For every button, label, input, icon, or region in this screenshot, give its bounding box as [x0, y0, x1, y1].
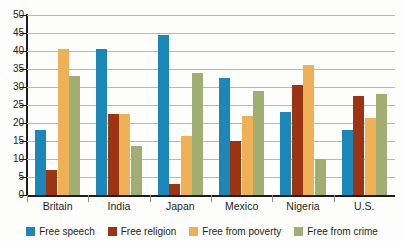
- bar: [365, 118, 376, 195]
- gridline-35: [27, 69, 395, 70]
- bar: [96, 49, 107, 195]
- bar: [230, 141, 241, 195]
- bar: [35, 130, 46, 195]
- bar: [58, 49, 69, 195]
- chart-legend: Free speechFree religionFree from povert…: [0, 221, 404, 241]
- bar: [280, 112, 291, 195]
- bar: [303, 65, 314, 195]
- x-tick-label-mexico: Mexico: [211, 200, 272, 212]
- legend-swatch-icon: [294, 227, 303, 236]
- bar-chart: 50454035302520151050 Free speechFree rel…: [0, 0, 404, 241]
- y-axis-labels: 50454035302520151050: [0, 0, 24, 241]
- bar: [219, 78, 230, 195]
- bar: [342, 130, 353, 195]
- gridline-25: [27, 105, 395, 106]
- legend-swatch-icon: [26, 227, 35, 236]
- x-tick-label-britain: Britain: [27, 200, 88, 212]
- gridline-40: [27, 51, 395, 52]
- bar: [131, 146, 142, 195]
- legend-item[interactable]: Free religion: [108, 226, 177, 237]
- legend-label: Free religion: [121, 226, 177, 237]
- legend-label: Free speech: [39, 226, 95, 237]
- x-tick-label-nigeria: Nigeria: [272, 200, 333, 212]
- x-tick-label-india: India: [88, 200, 149, 212]
- legend-item[interactable]: Free speech: [26, 226, 95, 237]
- legend-swatch-icon: [108, 227, 117, 236]
- gridline-30: [27, 87, 395, 88]
- plot-area: [27, 15, 395, 195]
- bar: [376, 94, 387, 195]
- gridline-10: [27, 159, 395, 160]
- legend-swatch-icon: [189, 227, 198, 236]
- bar: [119, 114, 130, 195]
- bar: [292, 85, 303, 195]
- legend-label: Free from poverty: [202, 226, 281, 237]
- bar: [108, 114, 119, 195]
- bar: [169, 184, 180, 195]
- x-tick-label-us: U.S.: [334, 200, 395, 212]
- x-tick-label-japan: Japan: [150, 200, 211, 212]
- bar: [181, 136, 192, 195]
- bar: [242, 116, 253, 195]
- gridline-50: [27, 15, 395, 16]
- gridline-15: [27, 141, 395, 142]
- bar: [315, 159, 326, 195]
- bar: [46, 170, 57, 195]
- chart-title-cropped: [0, 0, 404, 7]
- legend-item[interactable]: Free from poverty: [189, 226, 281, 237]
- gridline-20: [27, 123, 395, 124]
- gridline-5: [27, 177, 395, 178]
- legend-label: Free from crime: [307, 226, 378, 237]
- legend-item[interactable]: Free from crime: [294, 226, 378, 237]
- bar: [253, 91, 264, 195]
- bar: [69, 76, 80, 195]
- bar: [158, 35, 169, 195]
- gridline-45: [27, 33, 395, 34]
- bar: [192, 73, 203, 195]
- bar: [353, 96, 364, 195]
